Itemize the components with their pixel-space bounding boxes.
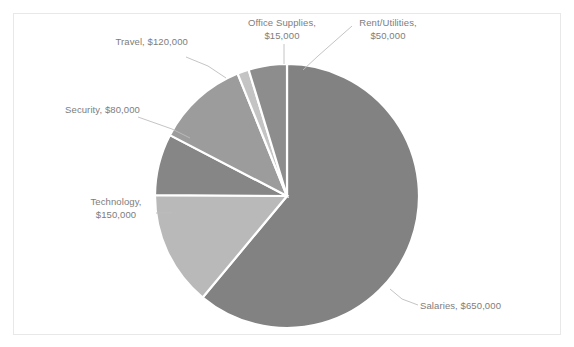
slice-label-office-supplies: Office Supplies, $15,000 xyxy=(236,17,328,42)
slice-label-security: Security, $80,000 xyxy=(38,104,140,117)
leader-line-travel xyxy=(186,57,226,78)
slice-label-rent-utilities: Rent/Utilities, $50,000 xyxy=(345,17,431,42)
pie-slices xyxy=(155,64,419,328)
leader-line-salaries xyxy=(390,289,418,305)
slice-label-travel: Travel, $120,000 xyxy=(82,36,188,49)
slice-label-technology: Technology, $150,000 xyxy=(76,196,156,221)
slice-label-salaries: Salaries, $650,000 xyxy=(420,300,540,313)
pie-chart xyxy=(0,0,574,347)
